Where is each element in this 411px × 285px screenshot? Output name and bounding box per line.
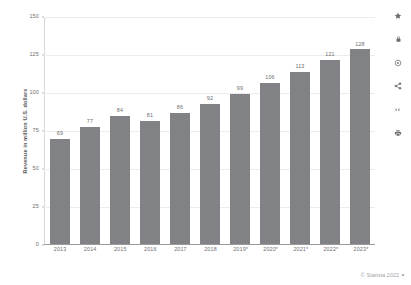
bar-value-label: 128 [355,42,364,47]
bar-slot: 77 [75,17,105,244]
y-tick-mark [42,169,44,170]
y-tick-mark [42,245,44,246]
bar-series: 69778481869299106113121128 [45,17,375,244]
x-tick-label: 2014 [75,247,105,252]
quote-icon[interactable] [394,105,403,114]
bar-value-label: 113 [295,64,304,69]
x-tick-label: 2021* [286,247,316,252]
y-tick-label: 0 [36,242,39,247]
bar-slot: 121 [315,17,345,244]
share-icon[interactable] [394,82,403,91]
y-tick-mark [42,131,44,132]
footer-attribution: © Statista 2022 [361,272,405,278]
y-tick-mark [42,55,44,56]
x-tick-label: 2017 [165,247,195,252]
bar-value-label: 106 [265,75,274,80]
bar[interactable] [230,94,250,244]
bar[interactable] [110,116,130,244]
lock-icon[interactable] [394,35,403,44]
x-tick-label: 2018 [195,247,225,252]
y-tick-label: 75 [33,128,39,133]
bar[interactable] [290,72,310,244]
bar-slot: 81 [135,17,165,244]
statista-logo-icon [401,273,405,277]
y-tick-label: 150 [29,14,39,19]
bar-value-label: 121 [325,52,334,57]
bar-slot: 92 [195,17,225,244]
bar[interactable] [260,83,280,244]
x-tick-label: 2020* [256,247,286,252]
print-icon[interactable] [394,129,403,138]
x-tick-label: 2015 [105,247,135,252]
star-icon[interactable] [394,11,403,20]
x-tick-label: 2023* [346,247,376,252]
bar-slot: 84 [105,17,135,244]
y-tick-mark [42,207,44,208]
y-tick-label: 25 [33,204,39,209]
bar-slot: 113 [285,17,315,244]
bar-slot: 128 [345,17,375,244]
x-tick-label: 2013 [45,247,75,252]
copyright-symbol: © [361,272,365,278]
y-axis-title-text: Revenue in million U.S. dollars [22,89,28,174]
bar-value-label: 81 [147,113,153,118]
bar[interactable] [320,60,340,244]
x-tick-label: 2019* [226,247,256,252]
gear-icon[interactable] [394,58,403,67]
y-tick-mark [42,17,44,18]
bar-value-label: 77 [87,119,93,124]
bar[interactable] [170,113,190,244]
x-axis-labels: 2013201420152016201720182019*2020*2021*2… [45,247,376,252]
y-tick-label: 100 [29,90,39,95]
bar-slot: 69 [45,17,75,244]
bar[interactable] [140,121,160,244]
icon-toolbar[interactable] [388,11,408,138]
bar[interactable] [50,139,70,244]
x-tick-label: 2022* [316,247,346,252]
y-tick-label: 125 [29,52,39,57]
bar-value-label: 69 [57,131,63,136]
bar-slot: 106 [255,17,285,244]
bar-slot: 99 [225,17,255,244]
bar-slot: 86 [165,17,195,244]
y-tick-label: 50 [33,166,39,171]
footer-text: Statista 2022 [367,272,399,278]
bar-value-label: 99 [237,86,243,91]
bar[interactable] [350,49,370,244]
bar[interactable] [80,127,100,244]
bar-value-label: 84 [117,108,123,113]
plot-area: 0255075100125150 69778481869299106113121… [44,17,375,245]
bar-value-label: 86 [177,105,183,110]
bar[interactable] [200,104,220,244]
y-tick-mark [42,93,44,94]
x-tick-label: 2016 [135,247,165,252]
x-axis-line [44,244,375,245]
chart-figure: Revenue in million U.S. dollars 02550751… [0,0,411,285]
bar-value-label: 92 [207,96,213,101]
